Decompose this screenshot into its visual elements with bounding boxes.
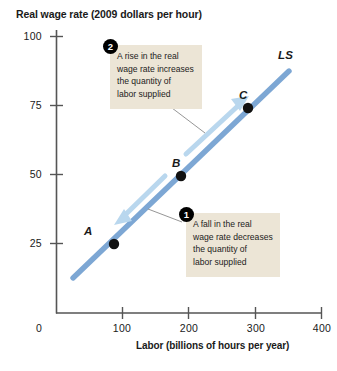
annotation-2-line-3: the quantity of xyxy=(117,75,196,88)
annotation-badge-2: 2 xyxy=(103,39,118,54)
annotation-1-line-3: the quantity of xyxy=(193,243,274,256)
x-axis-title: Labor (billions of hours per year) xyxy=(136,340,289,351)
data-point-c xyxy=(243,103,253,113)
x-tick-label-200: 200 xyxy=(172,322,206,334)
point-label-c: C xyxy=(239,89,247,101)
annotation-2-line-4: labor supplied xyxy=(117,88,196,101)
annotation-1-line-4: labor supplied xyxy=(193,256,274,269)
annotation-2-line-1: A rise in the real xyxy=(117,50,196,63)
annotation-1-line-1: A fall in the real xyxy=(193,218,274,231)
y-tick-label-100: 100 xyxy=(12,30,42,42)
annotation-note-1: A fall in the real wage rate decreases t… xyxy=(186,213,280,277)
x-tick-label-300: 300 xyxy=(239,322,273,334)
x-tick-label-400: 400 xyxy=(305,322,337,334)
data-point-a xyxy=(109,239,119,249)
y-tick-label-75: 75 xyxy=(12,99,42,111)
annotation-note-2: A rise in the real wage rate increases t… xyxy=(110,45,202,109)
annotation-2-line-2: wage rate increases xyxy=(117,63,196,76)
curve-label-ls: LS xyxy=(278,49,293,61)
y-tick-label-25: 25 xyxy=(12,237,42,249)
point-label-a: A xyxy=(84,225,92,237)
note-1-leader-line xyxy=(148,209,182,222)
point-label-b: B xyxy=(172,157,180,169)
x-tick-label-0: 0 xyxy=(22,322,56,334)
data-point-b xyxy=(176,171,186,181)
annotation-badge-1: 1 xyxy=(179,207,194,222)
annotation-1-line-2: wage rate decreases xyxy=(193,231,274,244)
y-tick-label-50: 50 xyxy=(12,168,42,180)
labor-supply-chart: Real wage rate (2009 dollars per hour) xyxy=(0,0,337,371)
note-2-leader-line xyxy=(172,108,205,133)
x-tick-label-100: 100 xyxy=(105,322,139,334)
